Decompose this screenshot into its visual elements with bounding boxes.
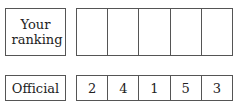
your-ranking-cell-5[interactable] <box>202 9 232 55</box>
your-ranking-cell-1[interactable] <box>77 9 108 55</box>
official-grid: 2 4 1 5 3 <box>76 75 233 101</box>
your-ranking-grid <box>76 8 233 56</box>
your-ranking-cell-4[interactable] <box>171 9 202 55</box>
your-ranking-cell-3[interactable] <box>139 9 170 55</box>
official-cell-5: 3 <box>202 76 232 100</box>
official-cell-1: 2 <box>77 76 108 100</box>
your-ranking-label: Your ranking <box>5 8 66 56</box>
official-label: Official <box>5 75 66 101</box>
official-cell-3: 1 <box>139 76 170 100</box>
your-ranking-cell-2[interactable] <box>108 9 139 55</box>
official-cell-4: 5 <box>171 76 202 100</box>
official-cell-2: 4 <box>108 76 139 100</box>
